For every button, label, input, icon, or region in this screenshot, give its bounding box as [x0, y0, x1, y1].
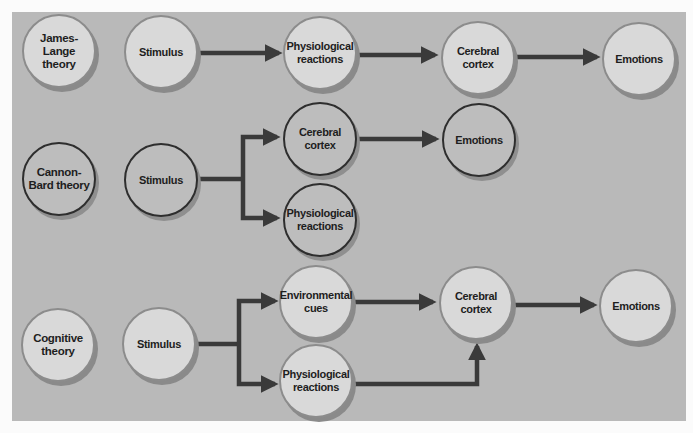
physiological-reactions-node: Physiological reactions — [283, 183, 357, 257]
emotions-node: Emotions — [599, 269, 673, 343]
cognitive-theory-node: Cognitive theory — [21, 308, 95, 382]
node-label: Cannon-Bard theory — [24, 166, 94, 192]
stimulus-node: Stimulus — [124, 143, 198, 217]
physiological-reactions-node: Physiological reactions — [279, 344, 353, 418]
node-label: Emotions — [610, 300, 662, 313]
environmental-cues-node: Environmental cues — [279, 265, 353, 339]
node-label: Stimulus — [137, 46, 185, 59]
physiological-reactions-node: Physiological reactions — [283, 16, 357, 90]
node-label: Physiological reactions — [285, 40, 356, 66]
cerebral-cortex-node: Cerebral cortex — [441, 21, 515, 95]
cerebral-cortex-node: Cerebral cortex — [439, 266, 513, 340]
james-lange-theory-node: James-Lange theory — [22, 14, 96, 88]
node-label: Stimulus — [135, 338, 183, 351]
node-label: Environmental cues — [278, 289, 355, 315]
emotions-node: Emotions — [602, 22, 676, 96]
node-label: Cerebral cortex — [285, 126, 355, 152]
node-label: Cerebral cortex — [443, 45, 513, 71]
emotions-node: Emotions — [442, 103, 516, 177]
node-label: Emotions — [453, 134, 505, 147]
node-label: Emotions — [613, 53, 665, 66]
cerebral-cortex-node: Cerebral cortex — [283, 102, 357, 176]
node-label: Physiological reactions — [281, 368, 352, 394]
stimulus-node: Stimulus — [124, 15, 198, 89]
node-label: Stimulus — [137, 174, 185, 187]
stimulus-node: Stimulus — [122, 307, 196, 381]
node-label: Cerebral cortex — [441, 290, 511, 316]
node-label: Physiological reactions — [285, 207, 356, 233]
node-label: James-Lange theory — [24, 32, 94, 71]
cannon-bard-theory-node: Cannon-Bard theory — [22, 142, 96, 216]
node-label: Cognitive theory — [23, 332, 93, 358]
